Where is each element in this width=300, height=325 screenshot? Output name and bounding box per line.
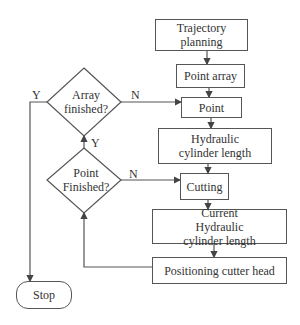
cutting-node: Cutting (180, 173, 229, 200)
hydraulic-cylinder-length-node: Hydraulic cylinder length (158, 128, 272, 164)
point-finished-no-label: N (129, 167, 138, 182)
current-hydraulic-cylinder-length-node: Current Hydraulic cylinder length (152, 209, 287, 244)
positioning-cutter-head-label: Positioning cutter head (164, 264, 275, 278)
stop-terminal-node: Stop (16, 281, 72, 309)
positioning-cutter-head-node: Positioning cutter head (152, 257, 287, 284)
trajectory-planning-label: Trajectory planning (156, 21, 247, 49)
point-array-label: Point array (184, 69, 237, 83)
point-finished-decision-label: Point Finished? (54, 166, 118, 194)
array-finished-decision-label: Array finished? (54, 88, 118, 116)
point-label: Point (199, 101, 224, 115)
point-array-node: Point array (176, 64, 245, 88)
array-finished-no-label: N (131, 88, 140, 103)
point-node: Point (181, 97, 242, 118)
stop-label: Stop (33, 288, 55, 302)
point-finished-yes-label: Y (91, 136, 100, 151)
hydraulic-cylinder-length-label: Hydraulic cylinder length (173, 132, 257, 160)
cutting-label: Cutting (186, 180, 222, 194)
trajectory-planning-node: Trajectory planning (155, 19, 248, 51)
array-finished-yes-label: Y (32, 88, 41, 103)
current-hydraulic-cylinder-length-label: Current Hydraulic cylinder length (177, 206, 262, 248)
